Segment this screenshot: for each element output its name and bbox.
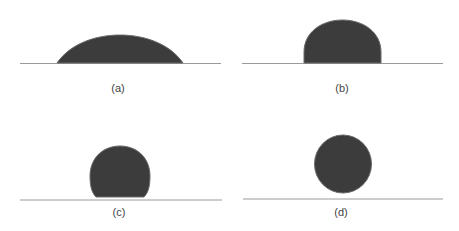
panel-a <box>20 35 221 64</box>
wetting-diagram <box>0 0 459 231</box>
droplet-d <box>315 135 372 193</box>
panel-label-c: (c) <box>99 206 139 218</box>
panel-c <box>20 146 222 200</box>
panel-b <box>242 20 443 64</box>
panel-label-d: (d) <box>321 206 361 218</box>
panel-label-b: (b) <box>322 82 362 94</box>
droplet-a <box>57 35 183 63</box>
droplet-c <box>90 146 150 197</box>
panel-label-a: (a) <box>98 82 138 94</box>
panel-d <box>243 135 443 199</box>
droplet-b <box>304 20 381 63</box>
